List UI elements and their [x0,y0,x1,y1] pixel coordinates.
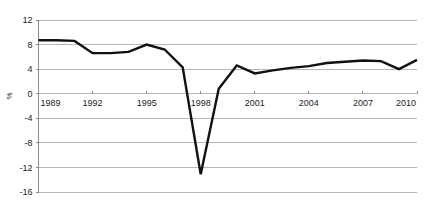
y-axis-title: % [5,92,14,99]
x-tick-label: 2007 [353,98,373,108]
x-axis-group: 19891992199519982001200420072010 [41,91,418,108]
y-tick-label: 8 [27,40,32,50]
x-tick-label: 1995 [137,98,157,108]
y-tick-label: -12 [19,163,32,173]
x-tick-label: 1998 [191,98,211,108]
y-tick-label: -4 [24,113,32,123]
y-axis-group: 12840-4-8-12-16 [19,15,38,197]
x-tick-label: 1989 [41,98,61,108]
x-axis-tick-labels: 19891992199519982001200420072010 [41,98,417,108]
line-chart: 12840-4-8-12-16 198919921995199820012004… [0,0,432,217]
y-tick-label: 4 [27,64,32,74]
y-tick-label: -8 [24,138,32,148]
y-axis-tick-labels: 12840-4-8-12-16 [19,15,32,197]
chart-container: 12840-4-8-12-16 198919921995199820012004… [0,0,432,217]
y-tick-label: -16 [19,187,32,197]
y-tick-label: 12 [22,15,32,25]
y-tick-label: 0 [27,89,32,99]
x-tick-label: 1992 [83,98,103,108]
x-tick-label: 2004 [299,98,319,108]
x-tick-label: 2010 [396,98,416,108]
x-tick-label: 2001 [245,98,265,108]
x-axis-ticks [93,91,417,94]
